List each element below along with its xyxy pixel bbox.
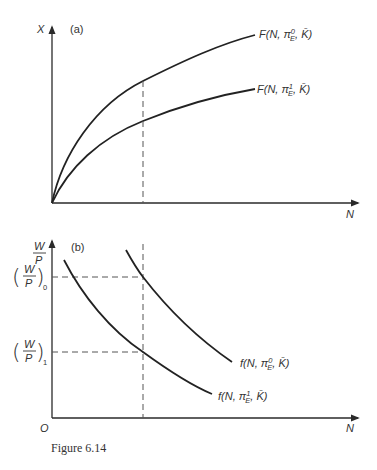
svg-text:P: P [25,277,33,289]
panel-a-y-label: X [36,23,45,35]
label-F-pi0: F(N, π0E, K̄) [259,27,312,43]
svg-text:0: 0 [43,283,47,292]
label-f-pi1: f(N, π1E, K̄) [218,389,268,405]
panel-a-x-label: N [346,208,354,220]
curve-f-pi0 [126,250,232,362]
svg-text:1: 1 [43,358,47,367]
origin-label: O [40,422,49,434]
panel-b-tag: (b) [71,241,84,253]
svg-text:W: W [24,338,36,350]
figure-caption: Figure 6.14 [51,441,106,455]
svg-text:W: W [24,263,36,275]
panel-b-x-label: N [346,422,354,434]
panel-a-tag: (a) [70,23,83,35]
svg-text:(: ( [12,339,21,364]
curve-F-pi1 [52,89,255,203]
svg-text:W: W [34,240,46,252]
svg-text:P: P [25,352,33,364]
curve-F-pi0 [52,35,255,203]
panel-b-y-label: W P [33,240,46,266]
svg-text:(: ( [12,264,21,289]
label-f-pi0: f(N, π0E, K̄) [240,356,290,372]
wage-level-0-label: ( W P ) 0 [12,263,47,292]
panel-b: W P (b) O N ( W P ) 0 ( W P ) 1 [12,240,358,434]
figure-canvas: X (a) N F(N, π0E, K̄) F(N, π1E, K̄) W P … [0,0,377,470]
label-F-pi1: F(N, π1E, K̄) [257,82,310,98]
curve-f-pi1 [64,260,212,394]
wage-level-1-label: ( W P ) 1 [12,338,47,367]
panel-a: X (a) N F(N, π0E, K̄) F(N, π1E, K̄) [36,23,358,220]
